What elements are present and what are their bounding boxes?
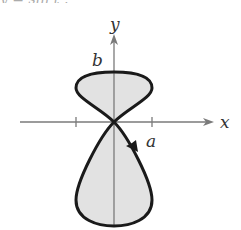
figure-eight-plot — [0, 0, 241, 230]
curve-label-a: a — [146, 133, 156, 150]
y-axis-label: y — [110, 16, 120, 33]
x-axis-label: x — [220, 114, 230, 131]
curve-label-b: b — [92, 52, 103, 69]
